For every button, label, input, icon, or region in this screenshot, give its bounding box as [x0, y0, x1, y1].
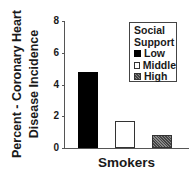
- y-tick-label: 6: [47, 47, 59, 58]
- y-tick-label: 8: [47, 15, 59, 26]
- y-tick-mark: [62, 116, 65, 117]
- middle-swatch-icon: [134, 62, 140, 69]
- x-axis: [64, 148, 189, 149]
- y-tick-label: 4: [47, 79, 59, 90]
- x-axis-label: Smokers: [64, 155, 189, 170]
- low-swatch-icon: [134, 50, 141, 57]
- y-axis-label: Percent - Coronary Heart Disease Inciden…: [0, 0, 50, 177]
- y-tick-label: 0: [47, 142, 59, 153]
- y-tick-mark: [62, 21, 65, 22]
- y-tick-mark: [62, 53, 65, 54]
- y-tick-label: 2: [47, 110, 59, 121]
- y-tick-mark: [62, 148, 65, 149]
- y-axis-label-line-2: Disease Incidence: [26, 10, 43, 158]
- y-tick-mark: [62, 85, 65, 86]
- y-axis-label-line-1: Percent - Coronary Heart: [9, 10, 26, 158]
- legend: Social Support Low Middle High: [129, 22, 177, 82]
- legend-item-high: High: [134, 71, 176, 83]
- high-swatch-icon: [134, 73, 141, 80]
- bar-middle: [115, 121, 135, 148]
- legend-title-line-1: Social: [134, 25, 176, 37]
- bar-high: [152, 135, 172, 148]
- bar-low: [78, 72, 98, 148]
- legend-item-low: Low: [134, 48, 176, 60]
